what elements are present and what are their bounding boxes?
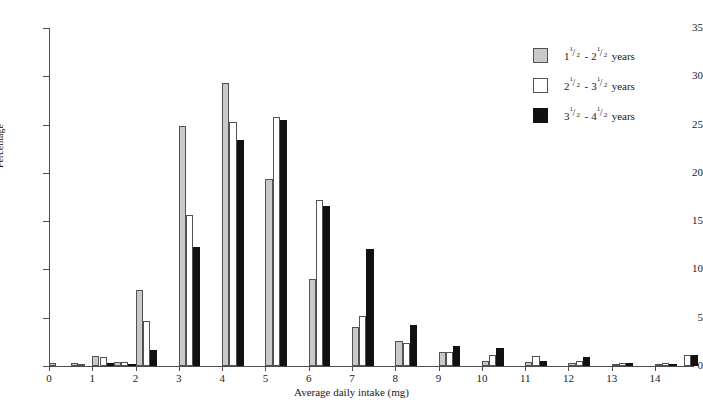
bar	[136, 290, 143, 366]
bar	[446, 352, 453, 366]
legend-item[interactable]: 21/2-31/2years	[533, 70, 635, 100]
x-axis-title: Average daily intake (mg)	[0, 386, 703, 398]
x-tick-label: 5	[255, 372, 275, 384]
bar	[100, 357, 107, 366]
bar	[309, 279, 316, 366]
x-tick-label: 1	[82, 372, 102, 384]
x-tick-mark	[352, 366, 353, 371]
bar	[323, 206, 330, 366]
x-tick-label: 10	[472, 372, 492, 384]
bar	[143, 321, 150, 366]
bar	[532, 356, 539, 366]
bar	[395, 341, 402, 366]
bar	[186, 215, 193, 366]
x-tick-label: 12	[558, 372, 578, 384]
x-tick-label: 11	[515, 372, 535, 384]
x-tick-mark	[439, 366, 440, 371]
x-tick-mark	[568, 366, 569, 371]
bar	[439, 352, 446, 366]
x-tick-mark	[179, 366, 180, 371]
x-tick-mark	[265, 366, 266, 371]
bar	[366, 249, 373, 366]
bar	[150, 350, 157, 366]
bar	[410, 325, 417, 366]
bar	[525, 362, 532, 366]
bar	[193, 247, 200, 366]
legend-swatch	[533, 78, 548, 93]
x-tick-label: 8	[385, 372, 405, 384]
x-tick-mark	[222, 366, 223, 371]
bar	[316, 200, 323, 366]
bar	[352, 327, 359, 366]
x-tick-label: 0	[39, 372, 59, 384]
bar	[684, 355, 691, 366]
bar	[403, 343, 410, 366]
x-tick-label: 14	[645, 372, 665, 384]
bar	[496, 348, 503, 366]
x-tick-mark	[655, 366, 656, 371]
bar	[71, 363, 78, 366]
bar	[655, 364, 662, 366]
bar	[612, 364, 619, 366]
legend-swatch	[533, 48, 548, 63]
y-axis-title: Percentage	[0, 124, 5, 168]
bar	[273, 117, 280, 366]
x-axis-line	[49, 366, 694, 367]
bar	[583, 357, 590, 366]
bar	[49, 363, 56, 366]
legend-label: 31/2-41/2years	[564, 109, 635, 122]
bar	[280, 120, 287, 366]
x-tick-mark	[136, 366, 137, 371]
bar	[179, 126, 186, 366]
x-tick-mark	[612, 366, 613, 371]
x-tick-mark	[309, 366, 310, 371]
x-tick-label: 2	[126, 372, 146, 384]
bar	[626, 363, 633, 366]
x-tick-mark	[525, 366, 526, 371]
bar	[222, 83, 229, 366]
x-tick-mark	[49, 366, 50, 371]
x-tick-label: 9	[429, 372, 449, 384]
legend-label: 11/2-21/2years	[564, 49, 635, 62]
bar	[662, 363, 669, 366]
bar	[568, 363, 575, 366]
bar	[359, 316, 366, 366]
x-tick-label: 6	[299, 372, 319, 384]
bar	[229, 122, 236, 366]
bar	[453, 346, 460, 366]
legend-swatch	[533, 108, 548, 123]
bar	[78, 364, 85, 366]
bar	[576, 361, 583, 366]
bar	[128, 364, 135, 366]
bar	[114, 362, 121, 366]
bar	[540, 361, 547, 366]
bar	[669, 364, 676, 366]
x-tick-label: 4	[212, 372, 232, 384]
x-tick-mark	[482, 366, 483, 371]
bar	[265, 179, 272, 366]
bar	[237, 140, 244, 366]
bar	[489, 355, 496, 366]
x-tick-label: 7	[342, 372, 362, 384]
bar	[92, 356, 99, 366]
x-tick-mark	[395, 366, 396, 371]
chart-legend: 11/2-21/2years21/2-31/2years31/2-41/2yea…	[533, 40, 635, 130]
x-tick-mark	[92, 366, 93, 371]
bar	[107, 363, 114, 366]
x-tick-label: 3	[169, 372, 189, 384]
x-tick-label: 13	[602, 372, 622, 384]
legend-item[interactable]: 31/2-41/2years	[533, 100, 635, 130]
histogram-chart: Percentage Average daily intake (mg) 051…	[0, 0, 703, 407]
bar	[482, 361, 489, 366]
bar	[691, 355, 698, 366]
legend-label: 21/2-31/2years	[564, 79, 635, 92]
legend-item[interactable]: 11/2-21/2years	[533, 40, 635, 70]
bar	[619, 363, 626, 366]
bar	[121, 362, 128, 366]
